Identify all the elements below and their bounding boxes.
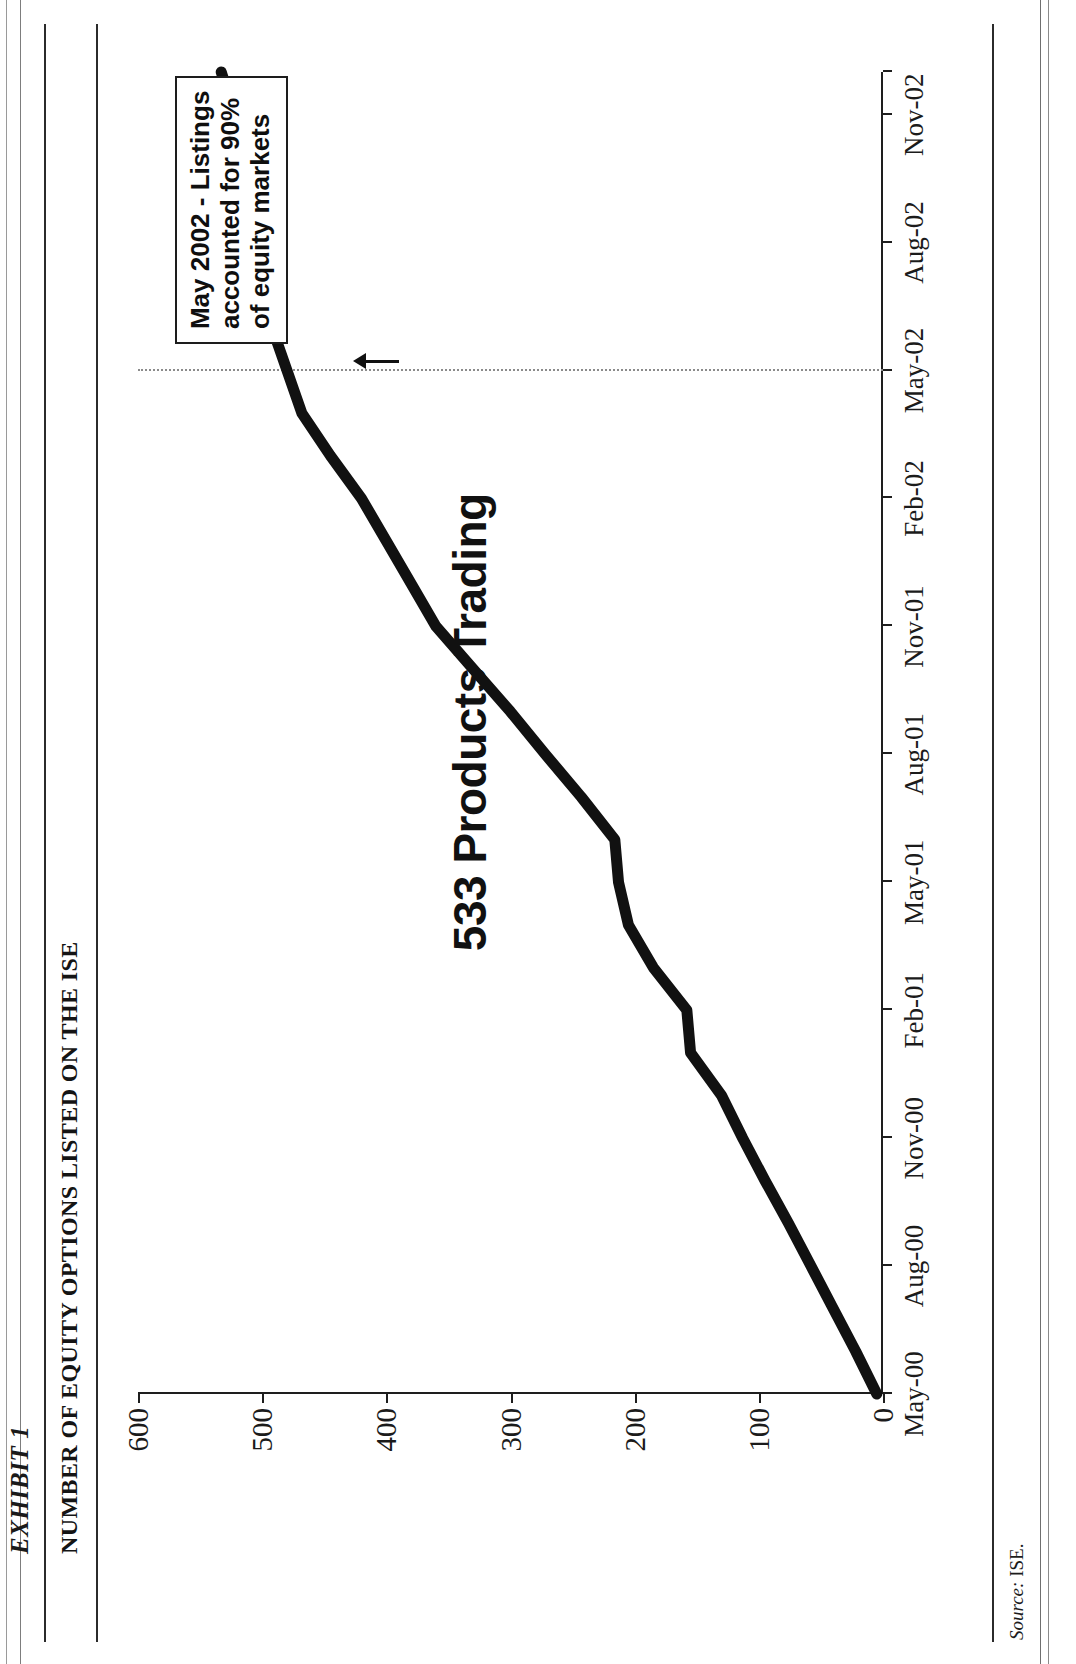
y-tick — [635, 1394, 637, 1403]
y-tick — [759, 1394, 761, 1403]
x-tick — [883, 241, 892, 243]
x-tick — [883, 1008, 892, 1010]
x-tick-label: May-00 — [899, 1351, 930, 1436]
x-tick — [883, 1392, 892, 1394]
title-divider — [96, 24, 98, 1642]
x-tick — [883, 1136, 892, 1138]
page-title: NUMBER OF EQUITY OPTIONS LISTED ON THE I… — [56, 941, 83, 1554]
x-tick — [883, 496, 892, 498]
footer-divider — [992, 24, 994, 1642]
x-tick-label: Feb-01 — [899, 972, 930, 1049]
plot-canvas: 0100200300400500600 May-00Aug-00Nov-00Fe… — [138, 72, 883, 1394]
y-tick — [883, 1394, 885, 1403]
x-tick — [883, 880, 892, 882]
x-tick-label: Aug-00 — [899, 1225, 930, 1308]
annotation-callout: May 2002 - Listings accounted for 90% of… — [175, 76, 288, 344]
x-tick-label: Nov-00 — [899, 1097, 930, 1180]
chart-area: 0100200300400500600 May-00Aug-00Nov-00Fe… — [120, 54, 975, 1514]
x-tick-label: May-02 — [899, 328, 930, 413]
y-tick-label: 600 — [122, 1408, 155, 1452]
x-tick — [883, 113, 892, 115]
annotation-line-1: May 2002 - Listings — [186, 91, 216, 329]
y-tick-label: 200 — [618, 1408, 651, 1452]
x-tick-label: Nov-02 — [899, 73, 930, 156]
annotation-line-3: of equity markets — [246, 91, 276, 329]
y-tick-label: 300 — [494, 1408, 527, 1452]
y-tick-label: 100 — [742, 1408, 775, 1452]
y-tick-label: 500 — [246, 1408, 279, 1452]
series-value-label: 533 Products Trading — [443, 493, 497, 951]
x-tick-label: Feb-02 — [899, 460, 930, 537]
x-tick — [883, 369, 892, 371]
exhibit-label: EXHIBIT 1 — [6, 1426, 34, 1554]
y-tick-label: 400 — [370, 1408, 403, 1452]
y-tick — [511, 1394, 513, 1403]
x-tick-label: May-01 — [899, 840, 930, 925]
y-tick — [386, 1394, 388, 1403]
x-tick — [883, 70, 892, 72]
x-tick-label: Nov-01 — [899, 585, 930, 668]
source-value: ISE. — [1006, 1544, 1027, 1577]
x-tick — [883, 752, 892, 754]
x-tick-label: Aug-02 — [899, 201, 930, 284]
source-label: Source: — [1006, 1582, 1027, 1640]
x-tick-label: Aug-01 — [899, 713, 930, 796]
x-tick — [883, 1264, 892, 1266]
y-tick-label: 0 — [867, 1408, 900, 1423]
source-note: Source: ISE. — [1006, 1544, 1028, 1640]
rotated-page: EXHIBIT 1 NUMBER OF EQUITY OPTIONS LISTE… — [0, 0, 1076, 1664]
x-tick — [883, 624, 892, 626]
header-divider — [44, 24, 46, 1642]
y-tick — [138, 1394, 140, 1403]
y-tick — [262, 1394, 264, 1403]
annotation-line-2: accounted for 90% — [216, 91, 246, 329]
